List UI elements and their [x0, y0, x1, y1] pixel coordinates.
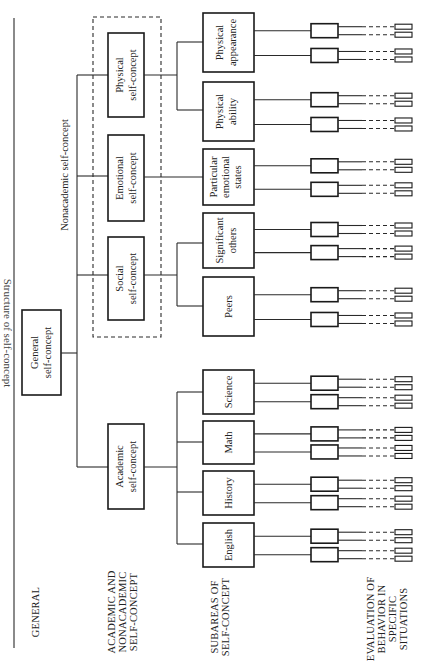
situation-box: [395, 246, 412, 251]
situation-box: [395, 223, 412, 228]
situation-box: [395, 453, 412, 458]
situation-box: [395, 486, 412, 491]
svg-text:self-concept: self-concept: [127, 152, 138, 203]
svg-text:Science: Science: [223, 375, 234, 408]
general-box-line1: General: [29, 336, 40, 369]
situation-box: [395, 313, 412, 318]
social-self-concept-box: Social self-concept: [108, 237, 144, 320]
general-box-line2: self-concept: [42, 327, 53, 378]
caption-evaluation: EVALUATION OF BEHAVIOR IN SPECIFIC SITUA…: [365, 577, 409, 661]
svg-text:BEHAVIOR IN: BEHAVIOR IN: [376, 584, 387, 653]
svg-text:self-concept: self-concept: [127, 253, 138, 304]
behavior-box: [311, 376, 338, 390]
evaluation-leaves: [254, 24, 412, 562]
svg-text:emotional: emotional: [220, 156, 231, 198]
behavior-box: [311, 496, 338, 510]
english-box: English: [203, 523, 254, 567]
history-box: History: [203, 471, 254, 515]
situation-box: [395, 93, 412, 98]
behavior-box: [311, 159, 338, 173]
behavior-box: [311, 246, 338, 260]
peers-box: Peers: [203, 277, 254, 336]
svg-text:Particular: Particular: [208, 156, 219, 197]
figure-title-partial: Structure of self-concept: [2, 279, 14, 388]
situation-box: [395, 57, 412, 62]
behavior-box: [311, 529, 338, 543]
svg-text:History: History: [223, 477, 234, 509]
behavior-box: [311, 395, 338, 409]
behavior-box: [311, 445, 338, 459]
svg-text:English: English: [223, 528, 234, 561]
svg-text:SUBAREAS OF: SUBAREAS OF: [209, 580, 220, 653]
situation-box: [395, 548, 412, 553]
svg-text:ability: ability: [227, 97, 238, 125]
situation-box: [395, 118, 412, 123]
situation-box: [395, 296, 412, 301]
situation-box: [395, 49, 412, 54]
svg-text:Social: Social: [114, 265, 125, 291]
svg-text:self-concept: self-concept: [127, 441, 138, 492]
math-box: Math: [203, 421, 254, 464]
svg-text:Academic: Academic: [114, 445, 125, 488]
svg-text:ACADEMIC AND: ACADEMIC AND: [106, 570, 117, 653]
physical-self-concept-box: Physical self-concept: [108, 33, 144, 117]
svg-text:self-concept: self-concept: [127, 49, 138, 100]
svg-text:Significant: Significant: [214, 217, 225, 263]
svg-text:SELF-CONCEPT: SELF-CONCEPT: [220, 577, 231, 656]
situation-box: [395, 385, 412, 390]
situation-box: [395, 183, 412, 188]
behavior-box: [311, 288, 338, 302]
behavior-box: [311, 24, 338, 38]
particular-emotional-states-box: Particular emotional states: [203, 149, 254, 205]
situation-box: [395, 231, 412, 236]
behavior-box: [311, 548, 338, 562]
situation-box: [395, 395, 412, 400]
situation-box: [395, 191, 412, 196]
general-self-concept-box: General self-concept: [22, 310, 61, 395]
physical-ability-box: Physical ability: [203, 82, 254, 141]
behavior-box: [311, 312, 338, 326]
caption-subareas: SUBAREAS OF SELF-CONCEPT: [209, 577, 231, 656]
situation-box: [395, 427, 412, 432]
situation-box: [395, 556, 412, 561]
situation-box: [395, 254, 412, 259]
behavior-box: [311, 477, 338, 491]
situation-box: [395, 24, 412, 29]
situation-box: [395, 530, 412, 535]
behavior-box: [311, 223, 338, 237]
caption-academic-nonacademic: ACADEMIC AND NONACADEMIC SELF-CONCEPT: [106, 570, 139, 653]
caption-general: GENERAL: [30, 587, 41, 637]
science-box: Science: [203, 370, 254, 414]
svg-text:states: states: [232, 165, 243, 188]
behavior-box: [311, 93, 338, 107]
situation-box: [395, 159, 412, 164]
behavior-box: [311, 117, 338, 131]
significant-others-box: Significant others: [203, 213, 254, 268]
svg-text:NONACADEMIC: NONACADEMIC: [117, 572, 128, 653]
svg-text:Emotional: Emotional: [114, 156, 125, 200]
situation-box: [395, 504, 412, 509]
svg-text:Physical: Physical: [214, 25, 225, 61]
behavior-box: [311, 48, 338, 62]
behavior-box: [311, 427, 338, 441]
svg-text:others: others: [227, 228, 238, 254]
svg-text:appearance: appearance: [227, 19, 238, 67]
behavior-box: [311, 182, 338, 196]
situation-box: [395, 445, 412, 450]
situation-box: [395, 167, 412, 172]
academic-self-concept-box: Academic self-concept: [108, 424, 144, 509]
situation-box: [395, 496, 412, 501]
svg-text:EVALUATION OF: EVALUATION OF: [365, 577, 376, 661]
situation-box: [395, 538, 412, 543]
svg-text:Math: Math: [223, 431, 234, 454]
situation-box: [395, 478, 412, 483]
situation-box: [395, 101, 412, 106]
svg-text:Peers: Peers: [223, 295, 234, 318]
svg-text:SITUATIONS: SITUATIONS: [398, 588, 409, 651]
self-concept-hierarchy-diagram: Structure of self-concept General self-c…: [0, 0, 426, 666]
svg-text:Physical: Physical: [214, 94, 225, 130]
nonacademic-label: Nonacademic self-concept: [59, 119, 70, 231]
emotional-self-concept-box: Emotional self-concept: [108, 135, 144, 221]
svg-text:SPECIFIC: SPECIFIC: [387, 596, 398, 643]
situation-box: [395, 32, 412, 37]
